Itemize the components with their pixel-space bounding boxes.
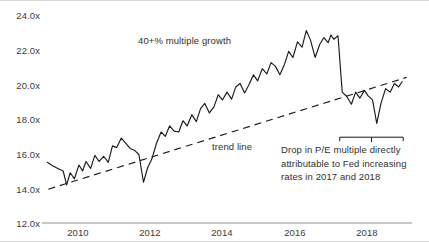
y-tick-label-22: 22.0x [0,45,40,56]
x-tick-label-2018: 2018 [345,227,389,238]
x-tick-label-2014: 2014 [200,227,244,238]
y-tick-label-24: 24.0x [0,10,40,21]
y-tick-label-12: 12.0x [0,218,40,229]
y-tick-label-20: 20.0x [0,80,40,91]
drop-callout-bracket [340,137,403,142]
y-tick-label-16: 16.0x [0,149,40,160]
x-tick-label-2012: 2012 [128,227,172,238]
y-tick-label-14: 14.0x [0,184,40,195]
annotation-fed-rate-drop: Drop in P/E multiple directly attributab… [281,143,429,184]
x-tick-label-2010: 2010 [56,227,100,238]
annotation-trend-line: trend line [212,140,252,154]
y-tick-label-18: 18.0x [0,114,40,125]
annotation-multiple-growth: 40+% multiple growth [138,34,231,48]
x-tick-label-2016: 2016 [273,227,317,238]
chart-container: 24.0x 22.0x 20.0x 18.0x 16.0x 14.0x 12.0… [0,0,429,242]
